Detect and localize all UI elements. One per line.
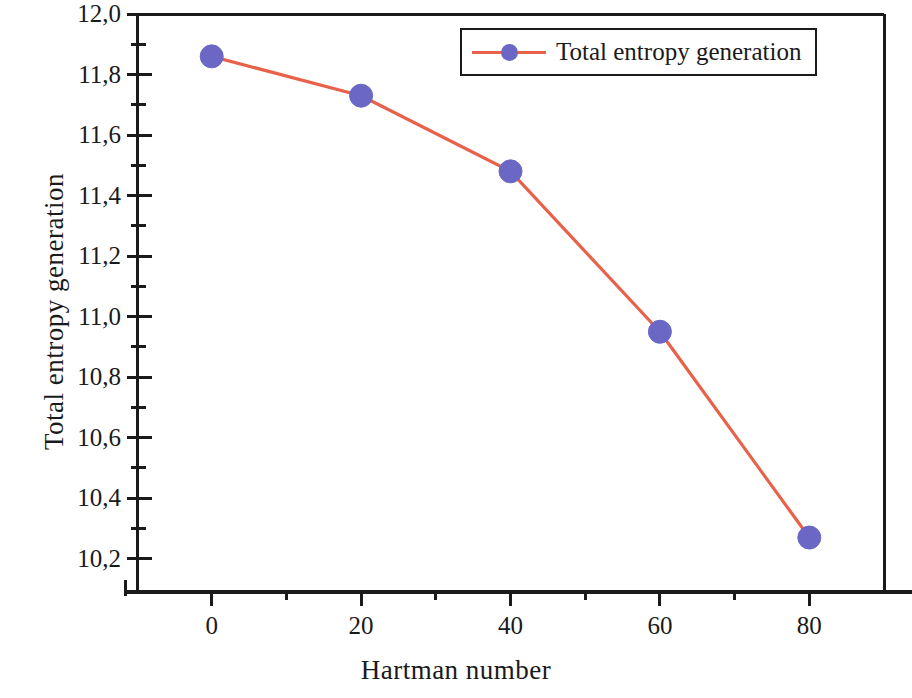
- y-tick-label: 10,2: [1, 545, 121, 573]
- legend-marker-icon: [501, 44, 518, 61]
- y-tick-label: 12,0: [1, 0, 121, 28]
- legend-swatch: [472, 41, 546, 63]
- x-axis-ticks: [212, 592, 810, 606]
- axis-frame: [137, 14, 884, 592]
- y-axis-ticks: [127, 14, 152, 559]
- x-tick-label: 20: [349, 612, 374, 640]
- series-markers: [200, 45, 821, 549]
- y-tick-label: 11,8: [1, 61, 121, 89]
- chart-legend: Total entropy generation: [460, 28, 817, 76]
- plot-area: [0, 0, 912, 698]
- x-tick-label: 80: [797, 612, 822, 640]
- x-tick-label: 40: [498, 612, 523, 640]
- chart-figure: 12,011,811,611,411,211,010,810,610,410,2…: [0, 0, 912, 698]
- legend-entry-label: Total entropy generation: [556, 38, 801, 66]
- x-axis-title: Hartman number: [0, 655, 912, 686]
- x-tick-label: 0: [205, 612, 218, 640]
- y-axis-title: Total entropy generation: [39, 112, 70, 512]
- series-line: [212, 56, 810, 537]
- x-axis: [125, 580, 912, 596]
- x-tick-label: 60: [647, 612, 672, 640]
